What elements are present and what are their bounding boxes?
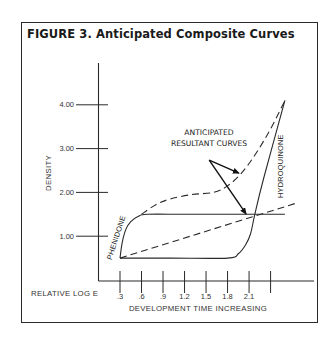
y-axis-title: DENSITY [44, 155, 53, 191]
series-group [120, 100, 296, 258]
y-tick-label: 2.00 [59, 188, 74, 197]
x-axis-title: DEVELOPMENT TIME INCREASING [129, 304, 267, 313]
series-line-anticipated-resultant-curve-lower [120, 203, 296, 258]
x-tick-label: .3 [117, 292, 123, 301]
x-tick-label: .9 [160, 292, 166, 301]
x-tick-label: 2.1 [244, 292, 254, 301]
annotation-text: ANTICIPATED [184, 128, 233, 137]
y-tick-label: 1.00 [59, 232, 74, 241]
x-tick-label: 1.2 [179, 292, 189, 301]
x-tick-label: 1.8 [222, 292, 232, 301]
y-tick-label: 4.00 [59, 100, 74, 109]
series-line-hydroquinone [120, 100, 285, 258]
series-line-phenidone [120, 214, 285, 258]
y-tick-label: 3.00 [59, 144, 74, 153]
x-tick-label: .6 [138, 292, 144, 301]
curve-label-hydroquinone: HYDROQUINONE [276, 134, 285, 198]
x-tick-label: 1.5 [201, 292, 211, 301]
annotation-text: RESULTANT CURVES [171, 139, 247, 148]
x-axis-left-label: RELATIVE LOG E [31, 289, 98, 298]
curve-label-phenidone: PHENIDONE [105, 214, 128, 260]
series-line-anticipated-resultant-curve-upper [142, 100, 285, 214]
chart: 1.002.003.004.00.3.6.91.21.51.82.1 PHENI… [0, 0, 335, 340]
